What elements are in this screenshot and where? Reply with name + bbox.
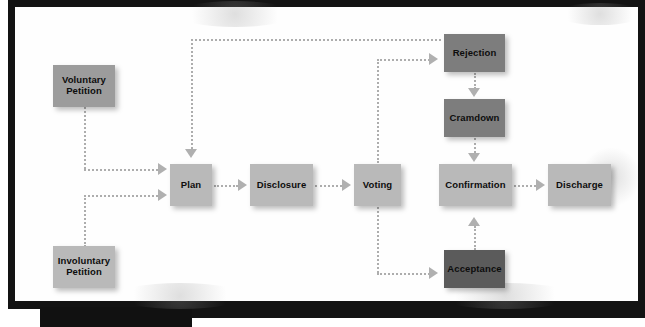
node-discharge-label: Discharge (556, 180, 603, 191)
node-cramdown[interactable]: Cramdown (444, 99, 505, 137)
edge-rejection-to-plan-horizontal (191, 39, 441, 41)
edge-voting-to-acceptance-horizontal (377, 273, 430, 275)
node-acceptance-label: Acceptance (447, 264, 501, 275)
caption-label-block (40, 307, 192, 327)
node-voting[interactable]: Voting (354, 164, 401, 206)
edge-confirmation-to-discharge (514, 185, 536, 187)
diagram-screenshot: Voluntary Petition Involuntary Petition … (0, 0, 645, 327)
edge-voluntary-to-plan-vertical (84, 107, 86, 169)
node-confirmation-label: Confirmation (445, 180, 505, 191)
arrowhead-voluntary-to-plan (158, 163, 167, 175)
arrowhead-confirmation-to-discharge (536, 179, 545, 191)
node-rejection[interactable]: Rejection (444, 34, 505, 72)
edge-involuntary-to-plan-vertical (84, 195, 86, 247)
node-discharge[interactable]: Discharge (548, 164, 611, 206)
arrowhead-acceptance-to-confirmation (468, 217, 480, 226)
arrowhead-plan-to-disclosure (238, 179, 247, 191)
edge-rejection-to-plan-vertical (191, 39, 193, 149)
frame-border-left (8, 0, 15, 308)
edge-rejection-to-cramdown (474, 73, 476, 89)
node-plan-label: Plan (181, 180, 201, 191)
node-plan[interactable]: Plan (170, 164, 212, 206)
arrowhead-rejection-to-cramdown (468, 88, 480, 97)
node-disclosure[interactable]: Disclosure (250, 164, 313, 206)
edge-voting-to-acceptance-vertical (377, 207, 379, 273)
node-confirmation[interactable]: Confirmation (439, 164, 512, 206)
edge-involuntary-to-plan-horizontal (84, 195, 158, 197)
scan-smudge (555, 3, 645, 25)
node-involuntary-petition-label: Involuntary Petition (58, 256, 110, 278)
arrowhead-voting-to-rejection (429, 53, 438, 65)
node-disclosure-label: Disclosure (257, 180, 307, 191)
edge-voluntary-to-plan-horizontal (84, 169, 158, 171)
caption-strip (192, 309, 645, 318)
node-acceptance[interactable]: Acceptance (444, 250, 505, 288)
edge-voting-to-rejection-horizontal (377, 59, 430, 61)
arrowhead-cramdown-to-confirmation (468, 153, 480, 162)
node-rejection-label: Rejection (453, 48, 497, 59)
edge-disclosure-to-voting (315, 185, 342, 187)
arrowhead-voting-to-acceptance (429, 267, 438, 279)
arrowhead-rejection-to-plan (185, 149, 197, 158)
node-voting-label: Voting (363, 180, 392, 191)
edge-acceptance-to-confirmation (474, 226, 476, 250)
frame-border-right (638, 0, 645, 318)
frame-border-top (8, 0, 645, 7)
arrowhead-disclosure-to-voting (342, 179, 351, 191)
node-cramdown-label: Cramdown (450, 113, 500, 124)
node-involuntary-petition[interactable]: Involuntary Petition (53, 246, 115, 288)
diagram-canvas: Voluntary Petition Involuntary Petition … (15, 7, 638, 301)
edge-voting-to-rejection-vertical (377, 59, 379, 163)
arrowhead-involuntary-to-plan (158, 189, 167, 201)
edge-plan-to-disclosure (214, 185, 238, 187)
edge-cramdown-to-confirmation (474, 138, 476, 153)
node-voluntary-petition[interactable]: Voluntary Petition (53, 65, 115, 107)
node-voluntary-petition-label: Voluntary Petition (62, 75, 106, 97)
